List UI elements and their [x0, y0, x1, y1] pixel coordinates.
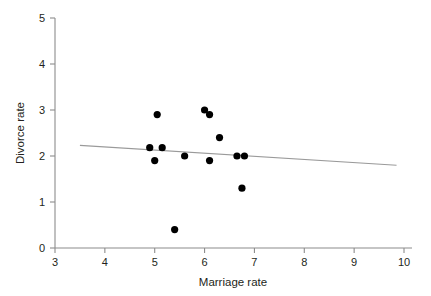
y-tick-label: 5	[39, 12, 45, 24]
data-point	[241, 152, 248, 159]
data-point	[206, 111, 213, 118]
y-tick-label: 4	[39, 58, 45, 70]
data-point	[206, 157, 213, 164]
data-points-group	[146, 106, 248, 233]
data-point	[146, 144, 153, 151]
data-point	[233, 152, 240, 159]
y-axis-title: Divorce rate	[14, 102, 26, 164]
x-tick-label: 4	[102, 256, 108, 268]
y-tick-label: 1	[39, 196, 45, 208]
x-tick-label: 7	[251, 256, 257, 268]
scatter-plot-figure: 012345 345678910 Marriage rate Divorce r…	[0, 0, 431, 296]
data-point	[154, 111, 161, 118]
x-axis-ticks	[55, 248, 404, 253]
x-tick-label: 5	[152, 256, 158, 268]
y-tick-label: 0	[39, 242, 45, 254]
y-tick-label: 3	[39, 104, 45, 116]
data-point	[216, 134, 223, 141]
data-point	[181, 152, 188, 159]
x-tick-label: 3	[52, 256, 58, 268]
data-point	[171, 226, 178, 233]
chart-svg: 012345 345678910 Marriage rate Divorce r…	[0, 0, 431, 296]
data-point	[159, 144, 166, 151]
x-tick-label: 6	[202, 256, 208, 268]
data-point	[238, 185, 245, 192]
y-tick-label: 2	[39, 150, 45, 162]
x-tick-label: 9	[351, 256, 357, 268]
x-axis-title: Marriage rate	[199, 276, 267, 288]
x-axis-tick-labels: 345678910	[52, 256, 410, 268]
x-tick-label: 8	[301, 256, 307, 268]
y-axis-ticks	[50, 18, 55, 248]
x-tick-label: 10	[398, 256, 410, 268]
data-point	[151, 157, 158, 164]
y-axis-tick-labels: 012345	[39, 12, 45, 254]
